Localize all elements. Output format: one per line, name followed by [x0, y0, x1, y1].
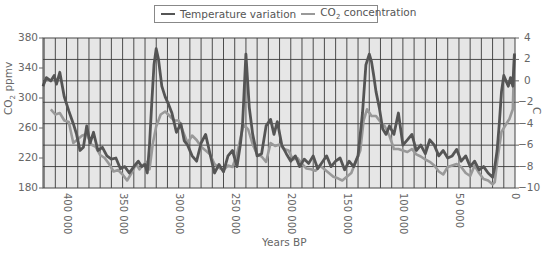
right-tick-label: −10: [518, 181, 540, 193]
right-tick-label: −8: [518, 160, 533, 172]
right-tick-label: −2: [518, 95, 533, 107]
right-tick-label: 4: [524, 31, 531, 43]
left-tick-label: 380: [6, 31, 38, 43]
x-tick-label: 0: [510, 193, 521, 199]
chart-canvas: [0, 0, 559, 259]
x-tick-label: 150 000: [342, 193, 353, 234]
x-tick-label: 200 000: [286, 193, 297, 234]
x-axis-label: Years BP: [262, 236, 307, 248]
x-tick-label: 350 000: [118, 193, 129, 234]
left-tick-label: 180: [6, 181, 38, 193]
x-tick-label: 50 000: [454, 193, 465, 228]
plot-area: [43, 38, 515, 188]
right-tick-label: −4: [518, 117, 533, 129]
left-tick-label: 260: [6, 121, 38, 133]
x-tick-label: 300 000: [174, 193, 185, 234]
x-tick-label: 100 000: [398, 193, 409, 234]
right-tick-label: 2: [524, 52, 531, 64]
right-tick-label: −6: [518, 138, 533, 150]
x-tick-label: 400 000: [62, 193, 73, 234]
left-tick-label: 220: [6, 151, 38, 163]
right-axis-label: C: [531, 107, 543, 114]
left-axis-label: CO2 ppmv: [2, 62, 17, 115]
x-tick-label: 250 000: [230, 193, 241, 234]
right-tick-label: 0: [524, 74, 531, 86]
